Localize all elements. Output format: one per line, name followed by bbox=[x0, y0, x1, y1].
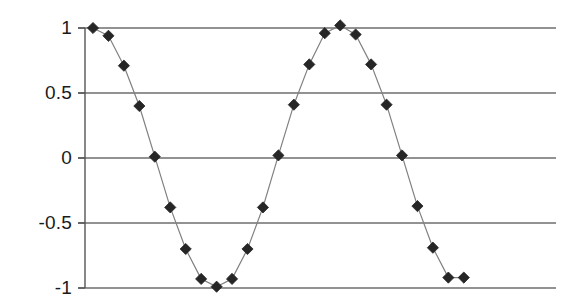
data-point-marker bbox=[118, 60, 129, 71]
data-point-marker bbox=[149, 151, 160, 162]
data-point-marker bbox=[443, 272, 454, 283]
data-point-marker bbox=[396, 150, 407, 161]
data-point-marker bbox=[242, 243, 253, 254]
data-point-marker bbox=[304, 59, 315, 70]
data-point-marker bbox=[319, 28, 330, 39]
data-point-marker bbox=[134, 100, 145, 111]
data-point-marker bbox=[87, 22, 98, 33]
y-axis-ticks-group bbox=[78, 28, 85, 288]
data-point-marker bbox=[412, 201, 423, 212]
data-point-marker bbox=[381, 99, 392, 110]
data-point-marker bbox=[196, 273, 207, 284]
data-point-marker bbox=[335, 20, 346, 31]
series-markers-sine bbox=[87, 20, 469, 293]
data-point-marker bbox=[458, 272, 469, 283]
data-point-marker bbox=[226, 273, 237, 284]
data-point-marker bbox=[103, 30, 114, 41]
data-point-marker bbox=[427, 242, 438, 253]
data-point-marker bbox=[211, 281, 222, 292]
plot-area bbox=[0, 0, 578, 307]
chart-container: 1 0.5 0 -0.5 -1 bbox=[0, 0, 578, 307]
data-point-marker bbox=[273, 150, 284, 161]
data-point-marker bbox=[366, 59, 377, 70]
data-point-marker bbox=[180, 243, 191, 254]
data-point-marker bbox=[257, 202, 268, 213]
data-point-marker bbox=[165, 202, 176, 213]
gridlines-group bbox=[78, 28, 556, 288]
data-point-marker bbox=[288, 99, 299, 110]
data-point-marker bbox=[350, 29, 361, 40]
